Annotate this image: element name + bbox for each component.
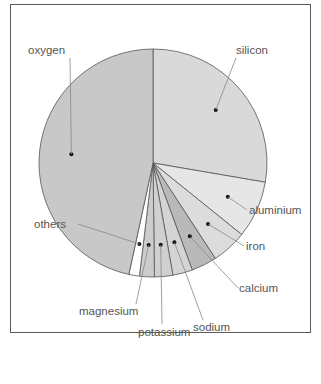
label-sodium: sodium xyxy=(193,321,230,333)
label-silicon: silicon xyxy=(236,44,268,56)
label-oxygen: oxygen xyxy=(28,44,65,56)
label-magnesium: magnesium xyxy=(79,305,138,317)
slice-silicon xyxy=(153,49,267,182)
label-potassium: potassium xyxy=(138,326,190,338)
label-aluminium: aluminium xyxy=(249,204,301,216)
label-others: others xyxy=(34,218,66,230)
label-calcium: calcium xyxy=(239,282,278,294)
slice-oxygen xyxy=(39,49,153,274)
pie-slices xyxy=(39,49,267,277)
label-iron: iron xyxy=(246,240,265,252)
pie-chart: oxygen silicon aluminium iron calcium so… xyxy=(0,0,321,384)
